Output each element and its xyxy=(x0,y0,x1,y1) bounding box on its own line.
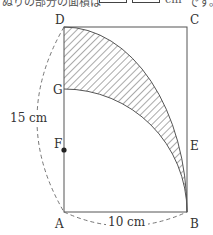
label-g: G xyxy=(53,83,63,97)
shaded-region xyxy=(64,27,187,212)
inner-arc-gb xyxy=(64,89,187,212)
dimension-label-15cm: 15 cm xyxy=(10,111,48,125)
dimension-label-10cm: 10 cm xyxy=(108,215,146,229)
geometry-figure: D C G F E A B 15 cm 10 cm xyxy=(0,0,213,235)
label-b: B xyxy=(190,217,199,231)
label-e: E xyxy=(190,139,199,153)
label-d: D xyxy=(55,13,65,27)
label-c: C xyxy=(190,13,199,27)
label-a: A xyxy=(54,217,64,231)
label-f: F xyxy=(54,137,62,151)
